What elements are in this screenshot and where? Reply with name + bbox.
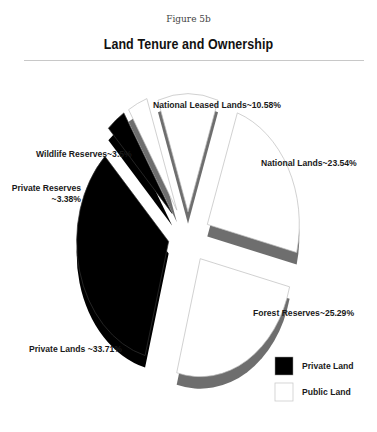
legend-label-public: Public Land [302, 387, 351, 397]
label-private-reserves-name: Private Reserves [12, 183, 81, 193]
legend-label-private: Private Land [302, 361, 354, 371]
pie-chart: National Leased Lands~10.58% National La… [0, 0, 377, 432]
legend-swatch-public [275, 383, 293, 401]
label-wildlife-reserves: Wildlife Reserves~3.5% [36, 149, 132, 159]
legend-swatch-private [275, 357, 293, 375]
label-private-lands: Private Lands ~33.71% [29, 344, 122, 354]
label-national-leased-lands: National Leased Lands~10.58% [153, 100, 281, 110]
label-private-reserves-value: ~3.38% [52, 194, 82, 204]
label-forest-reserves: Forest Reserves~25.29% [253, 308, 354, 318]
label-national-lands: National Lands~23.54% [261, 158, 357, 168]
legend: Private Land Public Land [275, 357, 354, 401]
